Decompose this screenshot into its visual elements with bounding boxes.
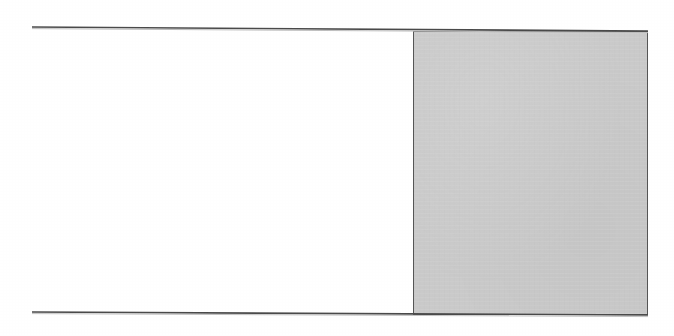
scanned-page xyxy=(0,0,674,336)
frame-rules xyxy=(0,0,674,336)
